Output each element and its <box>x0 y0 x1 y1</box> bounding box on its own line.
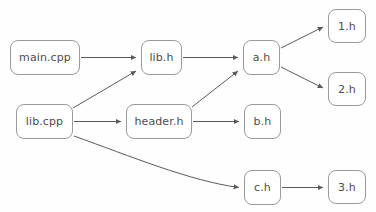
node-label: 3.h <box>338 181 356 192</box>
top-cropped-text <box>0 0 130 7</box>
node-1-h[interactable]: 1.h <box>328 9 366 43</box>
node-label: a.h <box>253 52 271 63</box>
node-2-h[interactable]: 2.h <box>328 72 366 106</box>
edge-lib_cpp-to-c_h <box>74 136 239 188</box>
node-a-h[interactable]: a.h <box>243 40 280 75</box>
node-label: 2.h <box>338 83 356 94</box>
edge-a_h-to-2_h <box>281 67 323 88</box>
edge-a_h-to-1_h <box>281 27 323 48</box>
node-label: lib.h <box>149 52 173 63</box>
node-lib-cpp[interactable]: lib.cpp <box>16 104 73 139</box>
node-lib-h[interactable]: lib.h <box>141 40 182 75</box>
node-label: main.cpp <box>19 52 71 63</box>
node-c-h[interactable]: c.h <box>244 170 281 205</box>
edge-header_h-to-a_h <box>192 71 238 107</box>
node-b-h[interactable]: b.h <box>244 104 281 139</box>
node-label: 1.h <box>338 20 356 31</box>
node-3-h[interactable]: 3.h <box>328 170 366 204</box>
node-label: b.h <box>254 116 272 127</box>
node-main-cpp[interactable]: main.cpp <box>10 40 80 75</box>
include-graph-canvas: main.cpp lib.cpp lib.h header.h a.h b.h … <box>0 0 376 212</box>
node-label: header.h <box>134 116 183 127</box>
edge-lib_cpp-to-lib_h <box>73 71 136 108</box>
node-label: c.h <box>254 182 271 193</box>
node-header-h[interactable]: header.h <box>126 104 192 139</box>
node-label: lib.cpp <box>26 116 63 127</box>
